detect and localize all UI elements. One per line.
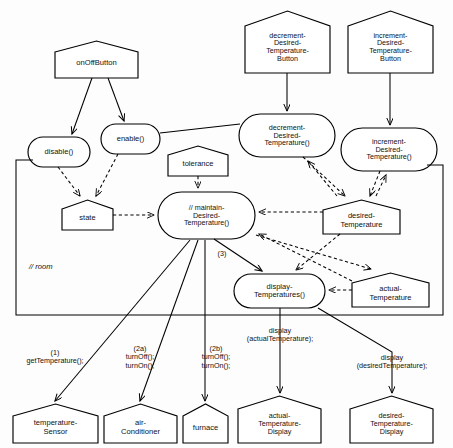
entity-decrementDesiredTemperatureButton[interactable]	[245, 11, 330, 73]
node-shapes	[13, 11, 437, 443]
edge-increment-desiredtemp	[370, 171, 380, 196]
edge-label-call2b: (2b)turnOff();turnOn();	[180, 345, 252, 370]
edge-onoffbutton-enable	[108, 78, 124, 121]
entity-desiredTemperatureDisplay[interactable]	[350, 396, 433, 443]
edge-disable-state	[58, 167, 80, 196]
entity-incrementDesiredTemperatureButton[interactable]	[348, 11, 433, 73]
operation-displayTemperatures[interactable]	[234, 274, 325, 308]
attribute-actualTemperature[interactable]	[352, 273, 429, 307]
entity-airConditioner[interactable]	[104, 404, 177, 443]
edge-label-displayActual: display(actualTemperature);	[228, 327, 332, 344]
diagram-svg	[0, 0, 453, 448]
edge-maintain-temperaturesensor	[55, 240, 190, 401]
operation-disable[interactable]	[28, 137, 90, 167]
edge-enable-state	[96, 154, 118, 196]
edge-onoffbutton-disable	[72, 78, 92, 134]
edge-enable-decrement	[160, 124, 240, 133]
operation-maintainDesiredTemperature[interactable]	[158, 192, 255, 239]
operation-enable[interactable]	[101, 124, 160, 154]
entity-onOffButton[interactable]	[55, 41, 138, 78]
edge-desiredtemp-display	[296, 234, 340, 270]
edge-label-displayDesired: display(desiredTemperature);	[338, 354, 446, 371]
edge-maintain-actualtemp	[256, 235, 371, 269]
entity-furnace[interactable]	[183, 404, 228, 443]
entity-actualTemperatureDisplay[interactable]	[238, 396, 321, 443]
attribute-state[interactable]	[62, 200, 113, 230]
attribute-desiredTemperature[interactable]	[323, 200, 400, 234]
edge-label-call2a: (2a)turnOff();turnOn();	[104, 345, 176, 370]
room-container-label: // room	[29, 262, 53, 271]
operation-decrementDesiredTemperature[interactable]	[239, 114, 335, 157]
edge-display-desireddisplay	[318, 308, 392, 393]
edge-label-seq3: (3)	[212, 250, 232, 258]
entity-temperatureSensor[interactable]	[13, 404, 98, 443]
attribute-tolerance[interactable]	[168, 146, 228, 176]
diagram-canvas: onOffButtondecrement-Desired-Temperature…	[0, 0, 453, 448]
edge-label-call1: (1)getTemperature();	[10, 349, 100, 366]
edge-maintain-airconditioner	[140, 240, 198, 401]
operation-incrementDesiredTemperature[interactable]	[341, 128, 437, 171]
